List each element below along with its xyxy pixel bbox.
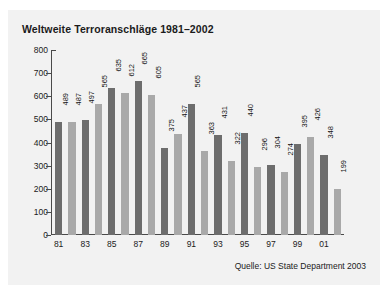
- x-axis-tick-label: 87: [134, 239, 143, 249]
- bar-slot[interactable]: 565: [92, 50, 105, 235]
- bar[interactable]: [307, 137, 314, 236]
- bar[interactable]: [267, 165, 274, 235]
- x-axis-tick-label: 95: [240, 239, 249, 249]
- bar[interactable]: [161, 148, 168, 235]
- bar[interactable]: [108, 88, 115, 235]
- x-axis-tick-label: 99: [293, 239, 302, 249]
- bar-slot[interactable]: 431: [211, 50, 224, 235]
- x-axis-tick-label: 85: [107, 239, 116, 249]
- bar-slot[interactable]: 426: [304, 50, 317, 235]
- page-title: Weltweite Terroranschläge 1981–2002: [22, 23, 214, 35]
- bar-slot[interactable]: 274: [278, 50, 291, 235]
- bar-slot[interactable]: 612: [118, 50, 131, 235]
- bar-series: 4894874975656356126656053754375653634313…: [52, 50, 344, 235]
- bar-slot[interactable]: 440: [238, 50, 251, 235]
- bar-slot[interactable]: 363: [198, 50, 211, 235]
- y-axis-tick-mark: [46, 73, 51, 74]
- x-axis-tick-label: 83: [80, 239, 89, 249]
- bar[interactable]: [174, 134, 181, 235]
- bar-slot[interactable]: 635: [105, 50, 118, 235]
- y-axis-tick-mark: [46, 212, 51, 213]
- x-axis-tick-label: 81: [54, 239, 63, 249]
- bar-slot[interactable]: 348: [317, 50, 330, 235]
- x-axis-tick-label: 89: [160, 239, 169, 249]
- y-axis-tick-mark: [46, 96, 51, 97]
- bar[interactable]: [55, 122, 62, 235]
- bar-slot[interactable]: 565: [185, 50, 198, 235]
- bar-slot[interactable]: 489: [52, 50, 65, 235]
- bar[interactable]: [241, 133, 248, 235]
- bar-slot[interactable]: 375: [158, 50, 171, 235]
- y-axis-tick-mark: [46, 189, 51, 190]
- bar-slot[interactable]: 304: [264, 50, 277, 235]
- bar[interactable]: [214, 135, 221, 235]
- bar[interactable]: [68, 122, 75, 235]
- y-axis-tick-label: 800: [34, 45, 48, 55]
- bar[interactable]: [82, 120, 89, 235]
- y-axis-tick-mark: [46, 235, 51, 236]
- bar[interactable]: [320, 155, 327, 235]
- bar-slot[interactable]: 497: [79, 50, 92, 235]
- plot-area: 8007006005004003002001000 48948749756563…: [8, 50, 380, 250]
- bar-slot[interactable]: 665: [132, 50, 145, 235]
- bar-value-label: 199: [337, 168, 350, 177]
- bar[interactable]: [228, 161, 235, 235]
- bar-slot[interactable]: 322: [225, 50, 238, 235]
- bar[interactable]: [121, 93, 128, 235]
- y-axis-tick-mark: [46, 143, 51, 144]
- bar[interactable]: [254, 167, 261, 235]
- bar[interactable]: [95, 104, 102, 235]
- y-axis-labels: 8007006005004003002001000: [8, 50, 48, 235]
- y-axis-tick-mark: [46, 166, 51, 167]
- bar[interactable]: [188, 104, 195, 235]
- bar[interactable]: [294, 144, 301, 235]
- bar-slot[interactable]: 296: [251, 50, 264, 235]
- chart-card: Weltweite Terroranschläge 1981–2002 8007…: [8, 10, 380, 285]
- bar-slot[interactable]: 437: [171, 50, 184, 235]
- x-axis-tick-label: 01: [319, 239, 328, 249]
- bar[interactable]: [281, 172, 288, 235]
- x-axis-tick-label: 91: [187, 239, 196, 249]
- bar-slot[interactable]: 395: [291, 50, 304, 235]
- bar-slot[interactable]: 487: [65, 50, 78, 235]
- source-annotation: Quelle: US State Department 2003: [235, 261, 366, 271]
- y-axis-tick-mark: [46, 119, 51, 120]
- bar[interactable]: [148, 95, 155, 235]
- x-axis-tick-label: 97: [266, 239, 275, 249]
- bar[interactable]: [201, 151, 208, 235]
- bar[interactable]: [135, 81, 142, 235]
- x-axis-tick-label: 93: [213, 239, 222, 249]
- bar[interactable]: [334, 189, 341, 235]
- bar-slot[interactable]: 605: [145, 50, 158, 235]
- bar-slot[interactable]: 199: [331, 50, 344, 235]
